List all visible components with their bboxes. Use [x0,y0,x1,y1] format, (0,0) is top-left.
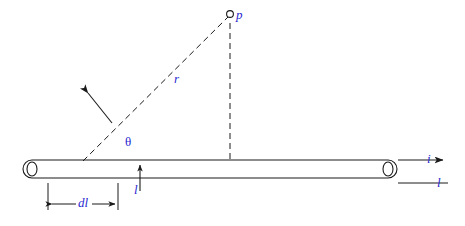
label-perpendicular-distance-l: l [134,183,138,196]
physics-diagram-svg [0,0,465,226]
label-current-i: i [427,152,431,165]
diagram-canvas: p r θ i l l dl [0,0,465,226]
label-radius-r: r [174,72,179,85]
wire-right-end-cap [383,162,393,176]
pointer-arrow-to-r [88,93,112,123]
point-p-marker [227,11,234,18]
dashed-line-r [83,17,228,161]
label-wire-length-l: l [437,176,441,189]
label-angle-theta: θ [125,135,131,148]
wire-left-end-cap [27,162,37,176]
label-point-p: p [236,8,243,21]
wire-rod [23,160,397,178]
label-element-dl: dl [78,196,88,209]
